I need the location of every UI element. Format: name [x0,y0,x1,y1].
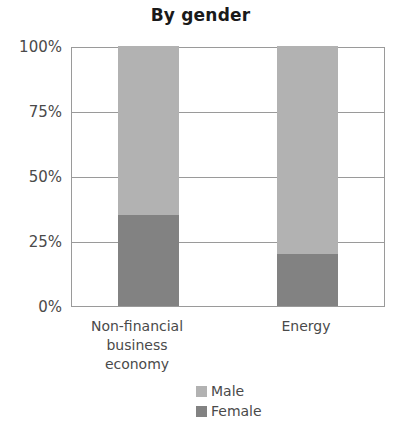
legend-swatch-female-icon [196,406,207,417]
bar-segment-female-non-financial-business-economy[interactable] [118,215,179,306]
legend-item-female[interactable]: Female [0,401,401,421]
y-tick-label-25: 25% [0,233,62,251]
legend-label-female: Female [211,403,262,419]
bar-segment-male-non-financial-business-economy[interactable] [118,46,179,215]
y-tick-label-50: 50% [0,168,62,186]
y-axis: 100% 75% 50% 25% 0% [0,47,62,307]
y-tick-label-100: 100% [0,38,62,56]
bar-segment-male-energy[interactable] [277,46,338,254]
chart-title: By gender [0,5,401,25]
plot-area [71,47,385,307]
x-axis-label-line-1: Non-financial [77,317,197,336]
chart-container: By gender 100% 75% 50% 25% 0% Non-financ… [0,0,401,442]
x-axis-label-line-2: business economy [77,336,197,374]
x-axis-label-line-1: Energy [246,317,366,336]
legend-label-male: Male [211,383,244,399]
y-tick-label-0: 0% [0,298,62,316]
y-tick-label-75: 75% [0,103,62,121]
x-axis-label-energy: Energy [246,317,366,336]
x-axis-label-non-financial-business-economy: Non-financial business economy [77,317,197,374]
legend-item-male[interactable]: Male [0,381,401,401]
bar-segment-female-energy[interactable] [277,254,338,306]
chart-legend: Male Female [0,381,401,421]
legend-swatch-male-icon [196,386,207,397]
